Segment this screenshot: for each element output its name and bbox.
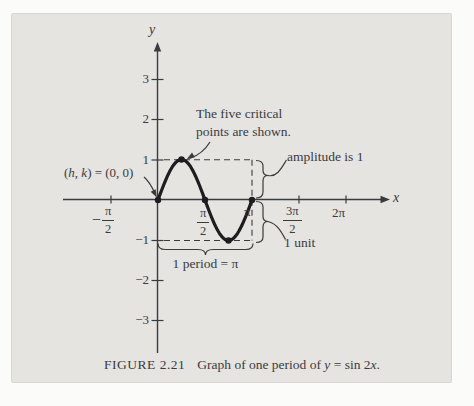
x-axis-arrowhead-icon xyxy=(381,196,391,203)
unit-brace xyxy=(256,202,268,243)
fraction: π 2 xyxy=(197,207,209,237)
amplitude-annotation: amplitude is 1 xyxy=(287,148,364,166)
fraction: π 2 xyxy=(102,205,114,235)
x-tick-label-pi: π xyxy=(244,205,251,220)
sine-plot xyxy=(0,0,474,406)
y-tick-label-neg2: −2 xyxy=(127,273,149,288)
critical-points-note: The five critical points are shown. xyxy=(196,105,291,141)
y-tick-label-neg1: −1 xyxy=(127,233,149,248)
y-tick-label-3: 3 xyxy=(127,72,149,87)
y-axis-label: y xyxy=(149,22,155,38)
figure-number: FIGURE 2.21 xyxy=(104,357,185,372)
hk-annotation: (h, k) = (0, 0) xyxy=(64,166,133,181)
x-axis-label: x xyxy=(393,190,399,206)
minus-sign: − xyxy=(92,211,101,229)
y-tick-label-2: 2 xyxy=(127,112,149,127)
unit-annotation: 1 unit xyxy=(284,234,315,252)
y-axis-arrowhead-icon xyxy=(154,42,161,52)
hk-arrowhead-icon xyxy=(151,189,157,197)
critical-point-dot xyxy=(178,156,184,162)
fraction: 3π 2 xyxy=(283,205,302,235)
critical-points-note-line1: The five critical xyxy=(196,105,291,123)
period-annotation: 1 period = π xyxy=(157,255,254,273)
y-tick-label-neg3: −3 xyxy=(127,313,149,328)
x-tick-label-three-half-pi: 3π 2 xyxy=(283,205,302,235)
figure-caption: FIGURE 2.21Graph of one period of y = si… xyxy=(104,357,380,373)
critical-point-dot xyxy=(155,197,161,203)
critical-points-note-line2: points are shown. xyxy=(196,123,291,141)
amplitude-brace xyxy=(256,161,268,199)
period-brace xyxy=(158,244,253,256)
x-tick-label-two-pi: 2π xyxy=(332,206,345,221)
critical-point-dot xyxy=(202,197,208,203)
textbook-figure: y x 3 2 1 −1 −2 −3 − π 2 π 2 π 3π 2 2π (… xyxy=(0,0,474,406)
x-tick-label-half-pi: π 2 xyxy=(197,207,209,237)
amplitude-leader-line xyxy=(268,160,287,176)
critical-point-dot xyxy=(249,197,255,203)
x-tick-label-neg-half-pi: − π 2 xyxy=(92,205,114,235)
critical-point-dot xyxy=(225,237,231,243)
